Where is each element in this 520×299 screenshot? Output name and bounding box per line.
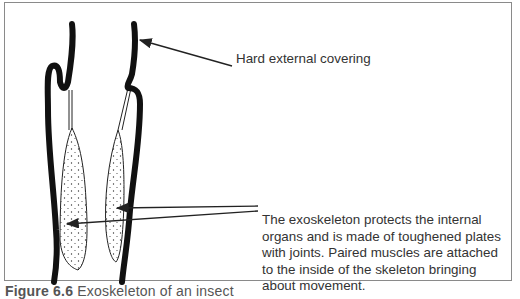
- figure-caption: Figure 6.6 Exoskeleton of an insect: [5, 283, 234, 299]
- caption-text: Exoskeleton of an insect: [77, 283, 234, 299]
- left-muscle: [60, 90, 87, 270]
- arrow-to-left-muscle: [67, 211, 258, 224]
- label-hard-external-covering: Hard external covering: [236, 51, 371, 68]
- arrow-to-right-muscle: [117, 206, 258, 208]
- right-exoskeleton: [122, 24, 140, 282]
- pointer-arrows: [67, 40, 258, 224]
- label-exoskeleton-description: The exoskeleton protects the internal or…: [262, 212, 512, 295]
- caption-number: Figure 6.6: [5, 283, 73, 299]
- arrow-to-covering: [140, 40, 232, 66]
